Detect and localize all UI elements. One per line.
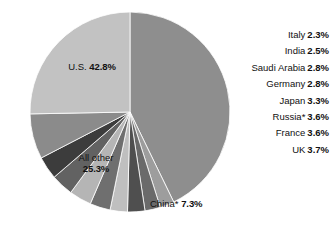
slice-label-china-name: China* (150, 198, 179, 209)
callout-pct: 2.3% (307, 29, 329, 40)
callout-label-list: Italy2.3%India2.5%Saudi Arabia2.8%German… (139, 27, 329, 158)
slice-label-us-pct: 42.8% (89, 61, 115, 72)
callout-row: Russia*3.6% (139, 109, 329, 125)
callout-pct: 3.3% (307, 95, 329, 106)
callout-name: Italy (288, 29, 305, 40)
slice-label-us: U.S. 42.8% (38, 61, 146, 72)
slice-label-all-other-name: All other (44, 152, 148, 163)
callout-row: France3.6% (139, 125, 329, 141)
callout-name: UK (292, 144, 305, 155)
slice-label-all-other-pct: 25.3% (44, 163, 148, 174)
callout-row: India2.5% (139, 43, 329, 59)
callout-name: France (276, 127, 306, 138)
slice-label-china-pct: 7.3% (181, 198, 202, 209)
callout-name: India (285, 45, 306, 56)
slice-label-all-other: All other 25.3% (44, 152, 148, 174)
slice-label-china: China* 7.3% (150, 198, 270, 209)
callout-row: UK3.7% (139, 142, 329, 158)
callout-pct: 3.6% (307, 127, 329, 138)
callout-pct: 3.6% (307, 111, 329, 122)
callout-name: Japan (279, 95, 305, 106)
slice-label-us-name: U.S. (68, 61, 86, 72)
callout-pct: 2.8% (307, 78, 329, 89)
callout-pct: 2.5% (307, 45, 329, 56)
callout-row: Germany2.8% (139, 76, 329, 92)
callout-row: Saudi Arabia2.8% (139, 60, 329, 76)
callout-name: Russia* (273, 111, 306, 122)
callout-pct: 3.7% (307, 144, 329, 155)
callout-name: Germany (266, 78, 305, 89)
callout-row: Japan3.3% (139, 93, 329, 109)
callout-row: Italy2.3% (139, 27, 329, 43)
pie-chart-figure: U.S. 42.8% All other 25.3% China* 7.3% I… (0, 0, 333, 227)
callout-name: Saudi Arabia (251, 62, 305, 73)
callout-pct: 2.8% (307, 62, 329, 73)
